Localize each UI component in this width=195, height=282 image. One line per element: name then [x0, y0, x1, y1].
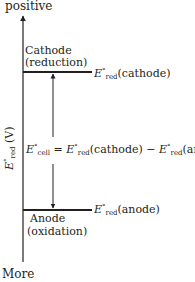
axis-bottom-label: More — [2, 268, 34, 280]
diagram-lines — [0, 0, 195, 282]
cathode-sub: red — [106, 73, 118, 81]
y-label-sup: ° — [3, 158, 11, 162]
anode-potential-label: E°red(anode) — [94, 204, 160, 216]
eq-t2-paren: (anode) — [183, 143, 195, 156]
axis-y-label: E°red (V) — [4, 126, 16, 170]
cathode-paren: (cathode) — [118, 67, 171, 80]
y-label-unit: (V) — [3, 126, 16, 143]
cell-potential-equation: E°cell = E°red(cathode) − E°red(anode) — [26, 144, 195, 156]
y-label-sub: red — [9, 146, 17, 158]
cathode-potential-label: E°red(cathode) — [94, 68, 171, 80]
anode-sub: red — [106, 209, 118, 217]
eq-equals: = — [54, 143, 63, 156]
anode-process: (oxidation) — [27, 226, 87, 238]
cathode-process: (reduction) — [25, 57, 87, 69]
eq-t2-symbol: E — [159, 143, 167, 156]
anode-name: Anode — [30, 213, 65, 225]
eq-t1-paren: (cathode) — [90, 143, 143, 156]
cathode-symbol: E — [94, 67, 102, 80]
eq-lhs-symbol: E — [26, 143, 34, 156]
anode-symbol: E — [94, 203, 102, 216]
y-label-symbol: E — [3, 162, 16, 170]
axis-top-label: positive — [5, 0, 52, 12]
eq-lhs-sub: cell — [38, 149, 51, 157]
anode-paren: (anode) — [118, 203, 160, 216]
eq-t2-sub: red — [171, 149, 183, 157]
eq-minus: − — [146, 143, 155, 156]
eq-t1-sub: red — [78, 149, 90, 157]
